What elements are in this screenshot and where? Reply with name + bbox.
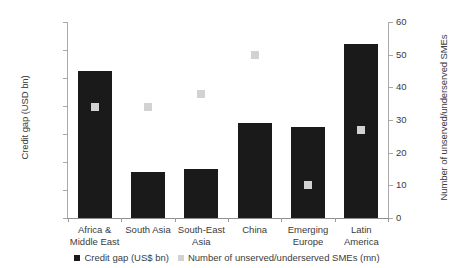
x-axis-category-line: America	[335, 236, 388, 248]
y-tick-right	[389, 218, 393, 219]
legend-label: Number of unserved/underserved SMEs (mn)	[188, 252, 380, 263]
x-axis-category-label: South-EastAsia	[175, 224, 228, 247]
legend-label: Credit gap (US$ bn)	[84, 252, 168, 263]
y-tick-label-right: 60	[396, 17, 436, 27]
y-tick-left	[63, 162, 67, 163]
scatter-marker	[197, 90, 205, 98]
y-tick-right	[389, 55, 393, 56]
x-axis-category-line: Europe	[281, 236, 334, 248]
plot-area: $0$100$200$300$400$500$600$700 010203040…	[68, 22, 388, 218]
chart-legend: Credit gap (US$ bn)Number of unserved/un…	[0, 252, 454, 263]
x-axis-separator	[68, 218, 69, 222]
bar	[184, 169, 218, 218]
legend-swatch-icon	[178, 255, 184, 261]
y-tick-left	[63, 78, 67, 79]
credit-gap-chart: Credit gap (USD bn) Number of unserved/u…	[0, 0, 454, 268]
y-tick-left	[63, 50, 67, 51]
x-axis-category-line: Africa &	[68, 224, 121, 236]
scatter-marker	[144, 103, 152, 111]
y-tick-label-right: 50	[396, 50, 436, 60]
x-axis-category-line: Emerging	[281, 224, 334, 236]
y-tick-left	[63, 190, 67, 191]
y-tick-left	[63, 106, 67, 107]
x-axis-separator	[335, 218, 336, 222]
x-axis-category-label: EmergingEurope	[281, 224, 334, 247]
y-axis-left-line	[67, 22, 68, 218]
y-tick-label-right: 30	[396, 115, 436, 125]
y-tick-right	[389, 87, 393, 88]
y-tick-left	[63, 134, 67, 135]
bar	[291, 127, 325, 218]
x-axis-category-line: China	[228, 224, 281, 236]
y-axis-right-title: Number of unserved/underserved SMEs	[438, 23, 449, 213]
x-axis-category-line: Asia	[175, 236, 228, 248]
bar	[238, 123, 272, 218]
x-axis-separator	[121, 218, 122, 222]
y-tick-label-right: 10	[396, 180, 436, 190]
bar	[78, 71, 112, 218]
x-axis-category-label: LatinAmerica	[335, 224, 388, 247]
y-tick-label-right: 40	[396, 82, 436, 92]
scatter-marker	[357, 126, 365, 134]
legend-item[interactable]: Number of unserved/underserved SMEs (mn)	[178, 252, 380, 263]
x-axis-separator	[388, 218, 389, 222]
legend-swatch-icon	[74, 255, 80, 261]
y-tick-right	[389, 185, 393, 186]
x-axis-separator	[228, 218, 229, 222]
scatter-marker	[304, 181, 312, 189]
scatter-marker	[91, 103, 99, 111]
bar	[131, 172, 165, 218]
y-tick-right	[389, 22, 393, 23]
x-axis-category-line: Middle East	[68, 236, 121, 248]
x-axis-category-line: South-East	[175, 224, 228, 236]
y-tick-left	[63, 22, 67, 23]
x-axis-category-label: China	[228, 224, 281, 236]
y-axis-left-title: Credit gap (USD bn)	[19, 48, 30, 188]
legend-item[interactable]: Credit gap (US$ bn)	[74, 252, 168, 263]
x-axis-separator	[281, 218, 282, 222]
y-tick-right	[389, 120, 393, 121]
x-axis-category-line: South Asia	[121, 224, 174, 236]
y-tick-right	[389, 153, 393, 154]
x-axis-category-label: Africa &Middle East	[68, 224, 121, 247]
x-axis-category-line: Latin	[335, 224, 388, 236]
scatter-marker	[251, 51, 259, 59]
y-tick-label-right: 20	[396, 148, 436, 158]
x-axis-category-label: South Asia	[121, 224, 174, 236]
y-tick-left	[63, 218, 67, 219]
y-tick-label-right: 0	[396, 213, 436, 223]
x-axis-separator	[175, 218, 176, 222]
